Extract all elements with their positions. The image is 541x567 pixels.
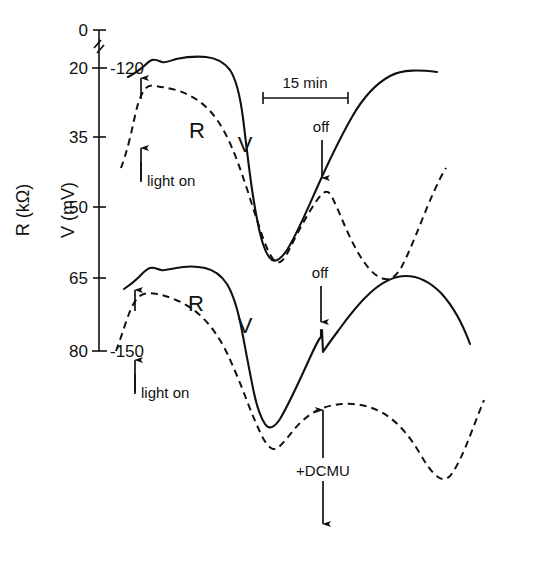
axis-title-voltage: V (mV) <box>58 182 78 238</box>
y-axis-group: 0 20 35 50 65 80 -120 -150 R (kΩ) V (mV) <box>13 21 144 361</box>
lower-r-curve-label: R <box>188 291 204 316</box>
tick-label-r-80: 80 <box>69 342 88 361</box>
tick-label-r-35: 35 <box>69 128 88 147</box>
upper-light-on-label: light on <box>147 172 195 189</box>
tick-label-r-20: 20 <box>69 59 88 78</box>
upper-light-on-annotation: light on <box>141 78 195 189</box>
axis-title-resistance: R (kΩ) <box>13 184 33 236</box>
dcmu-annotation: +DCMU <box>296 410 350 524</box>
lower-voltage-trace <box>124 267 470 428</box>
upper-v-curve-label: V <box>238 132 253 157</box>
tick-label-r-0: 0 <box>79 21 88 40</box>
scalebar-label: 15 min <box>282 74 327 91</box>
lower-off-label: off <box>312 264 329 281</box>
upper-off-annotation: off <box>313 118 330 178</box>
lower-off-annotation: off <box>312 264 329 322</box>
trace-plot: 0 20 35 50 65 80 -120 -150 R (kΩ) V (mV)… <box>0 0 541 567</box>
lower-trace-group: off R V light on +DCMU <box>116 264 484 524</box>
tick-label-r-65: 65 <box>69 269 88 288</box>
tick-label-v-150: -150 <box>110 342 144 361</box>
dcmu-label: +DCMU <box>296 462 350 479</box>
lower-v-curve-label: V <box>238 313 253 338</box>
upper-off-label: off <box>313 118 330 135</box>
tick-label-v-120: -120 <box>110 59 144 78</box>
upper-r-curve-label: R <box>189 118 205 143</box>
figure-canvas: 0 20 35 50 65 80 -120 -150 R (kΩ) V (mV)… <box>0 0 541 567</box>
lower-light-on-label: light on <box>141 384 189 401</box>
scalebar-group: 15 min <box>263 74 348 104</box>
